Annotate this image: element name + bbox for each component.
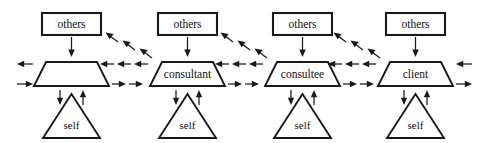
arrow-others-to-middle-2 xyxy=(184,37,191,57)
edge-left-lower-arrow xyxy=(17,81,33,87)
arrow-others-to-middle-4 xyxy=(412,37,419,57)
column-1-group: others self xyxy=(34,13,109,138)
up-left-arrow xyxy=(368,49,381,58)
self-label-3: self xyxy=(295,119,311,131)
left-arrow xyxy=(117,61,131,67)
arrow-others-to-middle-1 xyxy=(68,37,75,57)
arrow-self-to-middle-2 xyxy=(196,90,202,105)
middle-label-2: consultant xyxy=(164,68,212,80)
left-arrow xyxy=(345,61,359,67)
arrow-middle-to-self-4 xyxy=(401,90,407,105)
others-label-1: others xyxy=(57,18,86,30)
up-left-arrow xyxy=(221,33,234,42)
arrow-others-to-middle-3 xyxy=(299,37,306,57)
edge-right-lower-arrow xyxy=(456,81,472,87)
arrow-middle-to-self-3 xyxy=(288,90,294,105)
self-triangle-2[interactable] xyxy=(159,94,216,138)
diagonal-arrows-to-others-1 xyxy=(106,33,153,58)
middle-trapezoid-1[interactable] xyxy=(34,62,109,86)
between-columns-3-4-upper-arrows xyxy=(328,61,376,67)
up-left-arrow xyxy=(106,33,119,42)
up-left-arrow xyxy=(238,41,251,50)
left-arrow xyxy=(100,61,114,67)
right-arrow xyxy=(129,81,143,87)
self-label-4: self xyxy=(408,119,424,131)
between-columns-1-2-lower-arrows xyxy=(112,81,143,87)
diagram-canvas: others self others xyxy=(0,0,483,143)
up-left-arrow xyxy=(255,49,268,58)
right-arrow xyxy=(112,81,126,87)
edge-right-upper-arrow xyxy=(456,61,472,67)
middle-label-3: consultee xyxy=(281,68,324,80)
up-left-arrow xyxy=(140,49,153,58)
left-arrow xyxy=(215,61,229,67)
up-left-arrow xyxy=(351,41,364,50)
arrow-self-to-middle-4 xyxy=(424,90,430,105)
between-columns-2-3-lower-arrows xyxy=(228,81,259,87)
left-arrow xyxy=(232,61,246,67)
edge-left-upper-arrow xyxy=(17,61,33,67)
diagram-svg: others self others xyxy=(0,0,483,143)
self-triangle-4[interactable] xyxy=(387,94,444,138)
between-columns-1-2-upper-arrows xyxy=(100,61,148,67)
column-2-group: others consultant self xyxy=(150,13,225,138)
self-label-1: self xyxy=(64,119,80,131)
arrow-self-to-middle-3 xyxy=(311,90,317,105)
left-arrow xyxy=(249,61,263,67)
column-3-group: others consultee self xyxy=(265,13,340,138)
self-label-2: self xyxy=(180,119,196,131)
arrow-self-to-middle-1 xyxy=(80,90,86,105)
self-triangle-3[interactable] xyxy=(274,94,331,138)
right-arrow xyxy=(245,81,259,87)
up-left-arrow xyxy=(334,33,347,42)
left-arrow xyxy=(362,61,376,67)
up-left-arrow xyxy=(123,41,136,50)
others-label-4: others xyxy=(401,18,430,30)
right-arrow xyxy=(228,81,242,87)
others-label-2: others xyxy=(173,18,202,30)
self-triangle-1[interactable] xyxy=(43,94,100,138)
arrow-middle-to-self-2 xyxy=(173,90,179,105)
column-4-group: others client self xyxy=(378,13,453,138)
diagonal-arrows-to-others-3 xyxy=(334,33,381,58)
left-arrow xyxy=(134,61,148,67)
between-columns-3-4-lower-arrows xyxy=(343,81,374,87)
middle-label-4: client xyxy=(403,68,429,80)
right-arrow xyxy=(360,81,374,87)
diagonal-arrows-to-others-2 xyxy=(221,33,268,58)
right-arrow xyxy=(343,81,357,87)
arrow-middle-to-self-1 xyxy=(57,90,63,105)
between-columns-2-3-upper-arrows xyxy=(215,61,263,67)
others-label-3: others xyxy=(288,18,317,30)
